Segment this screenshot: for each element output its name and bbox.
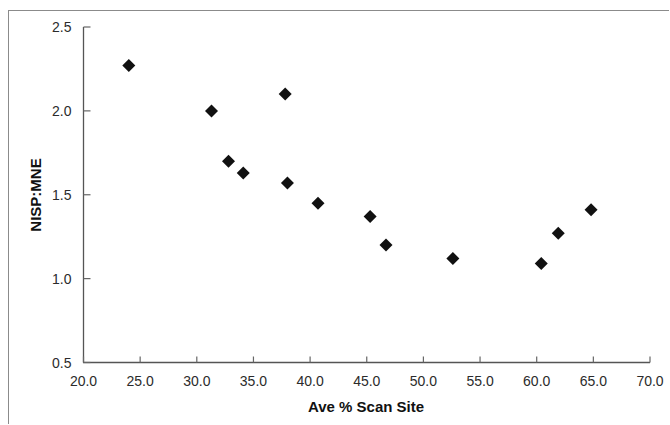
- x-tick-label: 25.0: [127, 373, 154, 389]
- x-tick-label: 30.0: [183, 373, 210, 389]
- y-axis-title: NISP:MNE: [27, 158, 44, 231]
- y-axis-tick-labels: 0.51.01.52.02.5: [52, 19, 72, 371]
- x-tick-label: 50.0: [410, 373, 437, 389]
- data-point-marker: [205, 104, 218, 117]
- x-tick-label: 45.0: [353, 373, 380, 389]
- y-tick-label: 2.5: [52, 19, 72, 35]
- y-tick-label: 1.5: [52, 187, 72, 203]
- data-point-marker: [122, 59, 135, 72]
- y-tick-label: 1.0: [52, 271, 72, 287]
- x-tick-label: 70.0: [636, 373, 663, 389]
- x-tick-label: 40.0: [296, 373, 323, 389]
- figure-container: 0.51.01.52.02.5 20.025.030.035.040.045.0…: [0, 0, 670, 425]
- data-point-marker: [364, 210, 377, 223]
- data-point-marker: [281, 177, 294, 190]
- x-axis-ticks: [84, 357, 651, 363]
- data-point-marker: [535, 257, 548, 270]
- y-tick-label: 0.5: [52, 355, 72, 371]
- data-point-marker: [585, 203, 598, 216]
- data-point-marker: [312, 197, 325, 210]
- x-tick-label: 35.0: [240, 373, 267, 389]
- x-axis-tick-labels: 20.025.030.035.040.045.050.055.060.065.0…: [70, 373, 664, 389]
- data-point-marker: [552, 227, 565, 240]
- x-tick-label: 65.0: [580, 373, 607, 389]
- y-axis-ticks: [84, 27, 91, 363]
- scatter-plot: 0.51.01.52.02.5 20.025.030.035.040.045.0…: [0, 0, 670, 425]
- y-tick-label: 2.0: [52, 103, 72, 119]
- data-point-marker: [222, 155, 235, 168]
- data-point-group: [122, 59, 597, 270]
- x-tick-label: 55.0: [466, 373, 493, 389]
- data-point-marker: [237, 166, 250, 179]
- data-point-marker: [279, 88, 292, 101]
- x-tick-label: 20.0: [70, 373, 97, 389]
- x-tick-label: 60.0: [523, 373, 550, 389]
- data-point-marker: [446, 252, 459, 265]
- data-point-marker: [380, 239, 393, 252]
- x-axis-title: Ave % Scan Site: [308, 398, 424, 415]
